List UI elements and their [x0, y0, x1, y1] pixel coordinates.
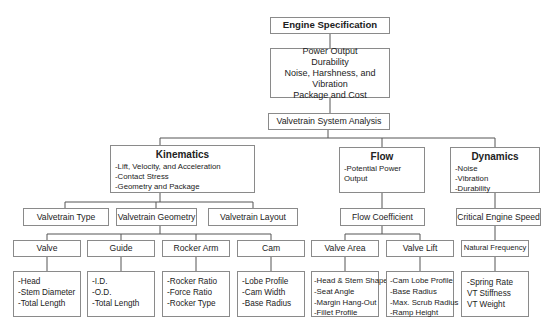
flow-box: Flow -Potential Power Output — [339, 147, 425, 193]
valve-lift-detail: -Base Radius — [390, 287, 450, 298]
requirement-item: Package and Cost — [293, 90, 367, 101]
critical-engine-speed-box: Critical Engine Speed — [456, 208, 541, 226]
valve-area-detail: -Head & Stem Shape — [314, 276, 376, 287]
dynamics-item: -Durability — [455, 184, 535, 194]
guide-detail: -O.D. — [92, 288, 150, 299]
valvetrain-diagram: Engine Specification Power Output Durabi… — [0, 0, 554, 333]
valvetrain-type-box: Valvetrain Type — [23, 208, 109, 226]
valvetrain-layout-box: Valvetrain Layout — [208, 208, 298, 226]
guide-detail: -Total Length — [92, 299, 150, 310]
valve-area-detail: -Seat Angle — [314, 287, 376, 298]
valve-lift-detail: -Max. Scrub Radius — [390, 298, 450, 309]
kinematics-item: -Lift, Velocity, and Acceleration — [115, 162, 250, 172]
valve-detail: -Total Length — [18, 299, 76, 310]
requirement-item: Noise, Harshness, and Vibration — [271, 68, 389, 90]
cam-details-box: -Lobe Profile -Cam Width -Base Radius — [237, 271, 305, 317]
rocker-arm-detail: -Rocker Type — [167, 299, 225, 310]
dynamics-title: Dynamics — [455, 151, 535, 163]
valve-area-box: Valve Area — [311, 240, 379, 257]
rocker-arm-detail: -Rocker Ratio — [167, 277, 225, 288]
valve-details-box: -Head -Stem Diameter -Total Length — [13, 271, 81, 317]
cam-detail: -Base Radius — [242, 299, 300, 310]
natural-frequency-details-box: -Spring Rate VT Stiffness VT Weight — [461, 271, 529, 317]
valve-lift-detail: -Ramp Height — [390, 308, 450, 319]
requirements-box: Power Output Durability Noise, Harshness… — [270, 48, 390, 98]
natural-frequency-detail: VT Stiffness — [467, 289, 523, 300]
requirement-item: Durability — [311, 57, 349, 68]
valve-detail: -Head — [18, 277, 76, 288]
requirement-item: Power Output — [302, 46, 357, 57]
flow-title: Flow — [344, 151, 420, 163]
natural-frequency-detail: -Spring Rate — [467, 278, 523, 289]
dynamics-box: Dynamics -Noise -Vibration -Durability — [450, 147, 540, 193]
rocker-arm-detail: -Force Ratio — [167, 288, 225, 299]
flow-coefficient-box: Flow Coefficient — [340, 208, 425, 226]
system-analysis-box: Valvetrain System Analysis — [268, 113, 390, 130]
guide-box: Guide — [87, 240, 155, 257]
valve-lift-details-box: -Cam Lobe Profile -Base Radius -Max. Scr… — [386, 271, 454, 317]
engine-specification-box: Engine Specification — [270, 17, 390, 34]
valve-lift-detail: -Cam Lobe Profile — [390, 276, 450, 287]
kinematics-item: -Contact Stress — [115, 172, 250, 182]
cam-box: Cam — [237, 240, 305, 257]
dynamics-item: -Noise — [455, 164, 535, 174]
valve-area-details-box: -Head & Stem Shape -Seat Angle -Margin H… — [311, 271, 379, 317]
dynamics-item: -Vibration — [455, 174, 535, 184]
guide-details-box: -I.D. -O.D. -Total Length — [87, 271, 155, 317]
natural-frequency-detail: VT Weight — [467, 300, 523, 311]
natural-frequency-box: Natural Frequency — [461, 240, 529, 257]
valve-box: Valve — [13, 240, 81, 257]
valve-area-detail: -Margin Hang-Out — [314, 298, 376, 309]
flow-item: -Potential Power Output — [344, 164, 420, 184]
kinematics-box: Kinematics -Lift, Velocity, and Accelera… — [110, 145, 255, 193]
valve-lift-box: Valve Lift — [386, 240, 454, 257]
valve-area-detail: -Fillet Profile — [314, 308, 376, 319]
rocker-arm-box: Rocker Arm — [162, 240, 230, 257]
kinematics-title: Kinematics — [115, 149, 250, 161]
valvetrain-geometry-box: Valvetrain Geometry — [116, 208, 197, 226]
kinematics-item: -Geometry and Package — [115, 182, 250, 192]
cam-detail: -Lobe Profile — [242, 277, 300, 288]
cam-detail: -Cam Width — [242, 288, 300, 299]
guide-detail: -I.D. — [92, 277, 150, 288]
valve-detail: -Stem Diameter — [18, 288, 76, 299]
rocker-arm-details-box: -Rocker Ratio -Force Ratio -Rocker Type — [162, 271, 230, 317]
